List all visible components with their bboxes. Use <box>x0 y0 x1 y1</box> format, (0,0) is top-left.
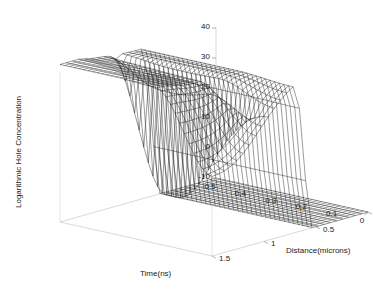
x-axis-title: Time(ns) <box>140 269 171 278</box>
x-tick-label: 0 <box>360 216 364 225</box>
z-tick-label: 30 <box>201 52 210 61</box>
x-tick-label: 0.3 <box>265 196 276 205</box>
x-tick-label: 0.5 <box>204 182 215 191</box>
z-tick-label: 20 <box>201 82 210 91</box>
surface-plot-figure: Logarithmic Hole Concentration Time(ns) … <box>0 0 373 298</box>
x-tick-label: 0.2 <box>296 202 307 211</box>
z-tick-label: -10 <box>198 172 210 181</box>
x-tick-label: 0.1 <box>326 209 337 218</box>
y-tick-label: 0.5 <box>323 225 334 234</box>
z-axis-title: Logarithmic Hole Concentration <box>14 96 23 208</box>
mesh-surface <box>60 49 368 227</box>
z-tick-label: 10 <box>201 112 210 121</box>
y-tick-label: 1.5 <box>219 254 230 263</box>
z-tick-label: 0 <box>206 142 210 151</box>
y-tick-label: 1 <box>271 239 275 248</box>
y-axis-title: Distance(microns) <box>286 246 350 255</box>
z-tick-label: 40 <box>201 22 210 31</box>
x-tick-label: 0.4 <box>235 189 246 198</box>
